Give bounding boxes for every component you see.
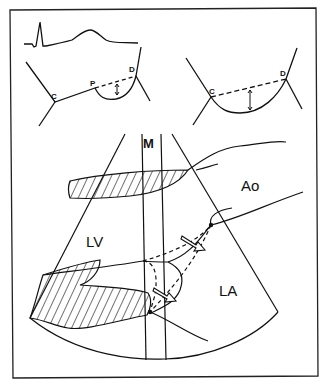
label-lv: LV <box>86 233 103 250</box>
mitral-motion-right-c-lower <box>193 97 211 125</box>
label-d-right: D <box>280 69 286 78</box>
aorta-wall-short <box>196 164 218 170</box>
leaflet-tip-dot-aortic <box>209 223 213 227</box>
m-beam-left <box>142 134 146 360</box>
leaflet-dashed-1 <box>143 225 211 261</box>
mitral-motion-left <box>26 62 136 102</box>
posterior-wall <box>30 260 151 329</box>
mitral-motion-left-lower <box>39 102 55 126</box>
mitral-motion-right <box>186 48 297 113</box>
label-ao: Ao <box>241 177 259 194</box>
leaflet-dashed-2 <box>150 225 211 312</box>
flow-arrow-upper <box>181 236 205 251</box>
mitral-motion-left-d <box>136 47 141 76</box>
label-d-left: D <box>129 65 135 74</box>
label-m-beam: M <box>143 136 154 151</box>
label-la: LA <box>219 282 237 299</box>
label-c-right: C <box>209 87 215 96</box>
mitral-motion-right-d-lower <box>286 79 302 109</box>
panel-top-left <box>24 22 150 126</box>
aorta-anterior-wall <box>188 141 286 170</box>
ecg-trace <box>24 22 138 47</box>
la-wall <box>150 312 208 341</box>
label-p-left: P <box>90 79 96 88</box>
label-c-left: C <box>51 92 57 101</box>
sector-scan <box>30 134 303 360</box>
mitral-motion-left-d-lower <box>136 76 150 101</box>
leaflet-tip-dot-mitral <box>148 310 152 314</box>
diagram-canvas: C P D C D <box>0 0 326 384</box>
aorta-posterior-wall <box>211 192 303 225</box>
septum <box>69 170 189 198</box>
m-beam-right <box>161 134 166 360</box>
anterior-leaflet <box>143 225 211 262</box>
panel-top-right <box>186 48 302 125</box>
c-d-dashed-line <box>211 79 286 97</box>
